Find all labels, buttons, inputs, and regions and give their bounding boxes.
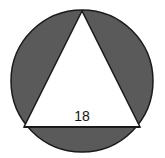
diagram-canvas: 18 [0, 0, 165, 158]
side-length-label: 18 [74, 108, 90, 124]
